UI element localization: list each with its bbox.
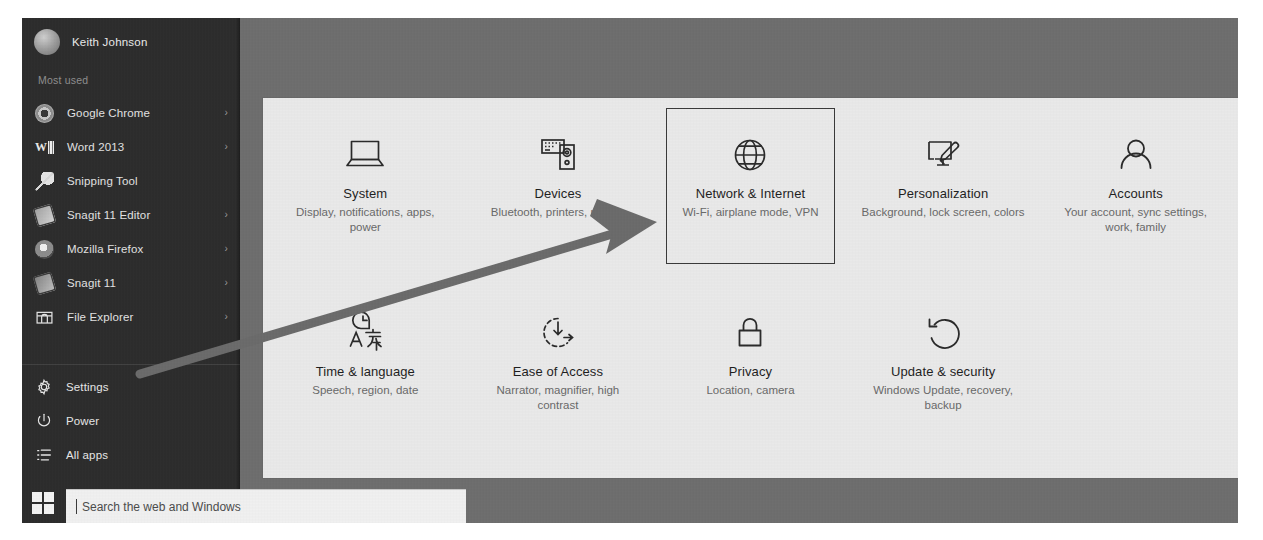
tile-subtitle: Wi-Fi, airplane mode, VPN	[682, 205, 818, 220]
chrome-icon	[35, 104, 54, 123]
windows-logo-icon[interactable]	[32, 492, 54, 514]
settings-tile-system[interactable]: System Display, notifications, apps, pow…	[269, 122, 462, 240]
settings-tile-accounts[interactable]: Accounts Your account, sync settings, wo…	[1039, 122, 1232, 240]
chevron-right-icon[interactable]: ›	[225, 312, 228, 322]
settings-tile-time-and-language[interactable]: Time & language Speech, region, date	[269, 300, 462, 418]
most-used-app-list: Google Chrome › W Word 2013 › Snipping T…	[22, 96, 240, 334]
ease-of-access-icon	[536, 310, 580, 356]
app-label: Word 2013	[67, 141, 124, 153]
settings-tile-grid: System Display, notifications, apps, pow…	[263, 98, 1238, 478]
settings-tile-personalization[interactable]: Personalization Background, lock screen,…	[847, 122, 1040, 240]
tile-subtitle: Windows Update, recovery, backup	[861, 383, 1026, 413]
tile-title: Ease of Access	[513, 364, 603, 380]
sidebar-item-settings[interactable]: Settings	[22, 370, 240, 404]
tile-subtitle: Background, lock screen, colors	[862, 205, 1025, 220]
start-menu: Keith Johnson Most used Google Chrome › …	[22, 18, 1238, 523]
snipping-tool-icon	[35, 172, 54, 191]
user-name: Keith Johnson	[72, 36, 148, 48]
chevron-right-icon[interactable]: ›	[225, 142, 228, 152]
app-item-mozilla-firefox[interactable]: Mozilla Firefox ›	[22, 232, 240, 266]
refresh-icon	[921, 310, 965, 356]
clock-language-icon	[342, 310, 388, 356]
system-item-list: Settings Power All app	[22, 370, 240, 472]
gear-icon	[35, 378, 53, 396]
chevron-right-icon[interactable]: ›	[225, 278, 228, 288]
settings-tile-ease-of-access[interactable]: Ease of Access Narrator, magnifier, high…	[462, 300, 655, 418]
devices-icon	[536, 132, 580, 178]
tile-title: System	[343, 186, 387, 202]
settings-tile-devices[interactable]: Devices Bluetooth, printers, mouse	[462, 122, 655, 240]
settings-tile-privacy[interactable]: Privacy Location, camera	[654, 300, 847, 418]
chevron-right-icon[interactable]: ›	[225, 210, 228, 220]
app-label: Snagit 11	[67, 277, 116, 289]
settings-tile-update-and-security[interactable]: Update & security Windows Update, recove…	[847, 300, 1040, 418]
snagit-editor-icon	[33, 203, 57, 227]
app-item-word-2013[interactable]: W Word 2013 ›	[22, 130, 240, 164]
word-icon: W	[35, 138, 54, 157]
sidebar-item-all-apps[interactable]: All apps	[22, 438, 240, 472]
tile-title: Devices	[534, 186, 581, 202]
app-item-file-explorer[interactable]: File Explorer ›	[22, 300, 240, 334]
app-label: Snipping Tool	[67, 175, 138, 187]
tile-subtitle: Bluetooth, printers, mouse	[491, 205, 625, 220]
tile-subtitle: Display, notifications, apps, power	[283, 205, 448, 235]
tile-title: Accounts	[1109, 186, 1163, 202]
tile-subtitle: Your account, sync settings, work, famil…	[1053, 205, 1218, 235]
laptop-icon	[343, 132, 387, 178]
settings-panel: System Display, notifications, apps, pow…	[263, 98, 1238, 478]
app-item-google-chrome[interactable]: Google Chrome ›	[22, 96, 240, 130]
folder-icon	[35, 308, 54, 327]
settings-tile-network-and-internet[interactable]: Network & Internet Wi-Fi, airplane mode,…	[654, 122, 847, 240]
text-caret	[76, 499, 77, 514]
tile-subtitle: Location, camera	[706, 383, 794, 398]
sidebar-item-power[interactable]: Power	[22, 404, 240, 438]
start-menu-left-rail: Keith Johnson Most used Google Chrome › …	[22, 18, 240, 523]
paintbrush-icon	[921, 132, 965, 178]
tile-title: Update & security	[891, 364, 995, 380]
power-icon	[35, 412, 53, 430]
tile-title: Time & language	[316, 364, 415, 380]
tile-title: Privacy	[729, 364, 772, 380]
person-icon	[1114, 132, 1158, 178]
search-box[interactable]	[66, 489, 466, 523]
chevron-right-icon[interactable]: ›	[225, 244, 228, 254]
search-input[interactable]	[80, 499, 424, 515]
app-item-snagit-11[interactable]: Snagit 11 ›	[22, 266, 240, 300]
app-item-snagit-11-editor[interactable]: Snagit 11 Editor ›	[22, 198, 240, 232]
lock-icon	[728, 310, 772, 356]
tile-title: Network & Internet	[696, 186, 805, 202]
user-account-row[interactable]: Keith Johnson	[22, 18, 240, 65]
user-avatar-icon	[34, 29, 60, 55]
app-label: Google Chrome	[67, 107, 150, 119]
globe-icon	[728, 132, 772, 178]
rail-divider	[22, 364, 240, 365]
firefox-icon	[35, 240, 54, 259]
sidebar-item-label: Settings	[66, 381, 109, 393]
tile-subtitle: Speech, region, date	[312, 383, 418, 398]
tile-subtitle: Narrator, magnifier, high contrast	[475, 383, 640, 413]
chevron-right-icon[interactable]: ›	[225, 108, 228, 118]
app-label: Mozilla Firefox	[67, 243, 143, 255]
most-used-label: Most used	[38, 74, 88, 86]
sidebar-item-label: All apps	[66, 449, 108, 461]
list-icon	[35, 446, 53, 464]
sidebar-item-label: Power	[66, 415, 99, 427]
app-item-snipping-tool[interactable]: Snipping Tool	[22, 164, 240, 198]
snagit-icon	[33, 271, 57, 295]
app-label: Snagit 11 Editor	[67, 209, 150, 221]
tile-title: Personalization	[898, 186, 988, 202]
app-label: File Explorer	[67, 311, 134, 323]
